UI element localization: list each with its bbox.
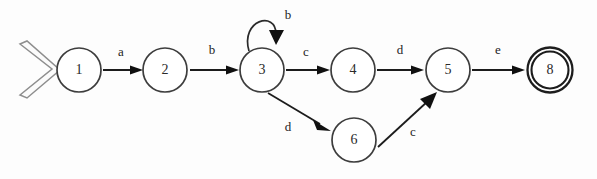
transition-6-to-5: c (378, 92, 437, 147)
state-node-3[interactable]: 3 (240, 48, 284, 92)
state-label-1: 1 (76, 62, 83, 77)
arrowhead-icon (269, 30, 284, 45)
state-label-4: 4 (350, 62, 357, 77)
transition-3-to-4: c (286, 44, 330, 75)
transition-label-a-1-2: a (118, 44, 124, 59)
fsm-diagram: a b b c d e (0, 0, 597, 179)
transition-label-b-2-3: b (209, 42, 216, 57)
transition-label-b-self-loop: b (285, 7, 292, 22)
state-node-1[interactable]: 1 (57, 48, 101, 92)
transition-label-d-3-6: d (285, 119, 292, 134)
transition-label-c-3-4: c (303, 44, 309, 59)
transition-2-to-3: b (190, 42, 239, 75)
arrowhead-icon (411, 66, 424, 75)
fsm-canvas: a b b c d e (0, 0, 597, 179)
transition-label-d-4-5: d (397, 42, 404, 57)
state-node-5[interactable]: 5 (426, 48, 470, 92)
transition-4-to-5: d (377, 42, 424, 75)
arrowhead-icon (317, 66, 330, 75)
state-label-6: 6 (351, 132, 358, 147)
arrowhead-icon (130, 66, 143, 75)
arrowhead-icon (226, 66, 239, 75)
state-label-8: 8 (547, 62, 554, 77)
state-node-8-accepting[interactable]: 8 (528, 48, 573, 93)
start-chevron-icon (20, 41, 60, 98)
transition-label-e-5-8: e (495, 42, 501, 57)
state-node-6[interactable]: 6 (332, 118, 376, 162)
transition-label-c-6-5: c (410, 124, 416, 139)
state-label-3: 3 (259, 62, 266, 77)
state-node-4[interactable]: 4 (331, 48, 375, 92)
transition-3-to-6: d (268, 93, 331, 134)
transition-1-to-2: a (103, 44, 143, 75)
transition-5-to-8: e (472, 42, 525, 75)
transition-3-self-loop: b (248, 7, 292, 51)
state-label-5: 5 (445, 62, 452, 77)
state-node-2[interactable]: 2 (143, 48, 187, 92)
state-label-2: 2 (162, 62, 169, 77)
arrowhead-icon (512, 66, 525, 75)
